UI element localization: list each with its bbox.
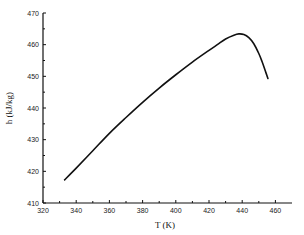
x-axis-label: T (K) bbox=[155, 220, 175, 230]
x-tick-label: 380 bbox=[137, 207, 149, 214]
y-tick-label: 440 bbox=[27, 105, 39, 112]
y-tick-label: 450 bbox=[27, 73, 39, 80]
x-tick-label: 420 bbox=[203, 207, 215, 214]
y-axis-label: h (kJ/kg) bbox=[4, 92, 14, 124]
x-tick-label: 440 bbox=[236, 207, 248, 214]
x-tick-label: 360 bbox=[104, 207, 116, 214]
x-axis-ticks: 320340360380400420440460 bbox=[37, 200, 281, 214]
y-tick-label: 410 bbox=[27, 200, 39, 207]
y-tick-label: 470 bbox=[27, 10, 39, 17]
x-tick-label: 400 bbox=[170, 207, 182, 214]
x-tick-label: 340 bbox=[70, 207, 82, 214]
x-tick-label: 320 bbox=[37, 207, 49, 214]
x-tick-label: 460 bbox=[270, 207, 282, 214]
y-tick-label: 430 bbox=[27, 136, 39, 143]
enthalpy-curve bbox=[65, 34, 268, 180]
y-tick-label: 460 bbox=[27, 41, 39, 48]
chart: 410420430440450460470 320340360380400420… bbox=[0, 0, 304, 235]
y-tick-label: 420 bbox=[27, 168, 39, 175]
